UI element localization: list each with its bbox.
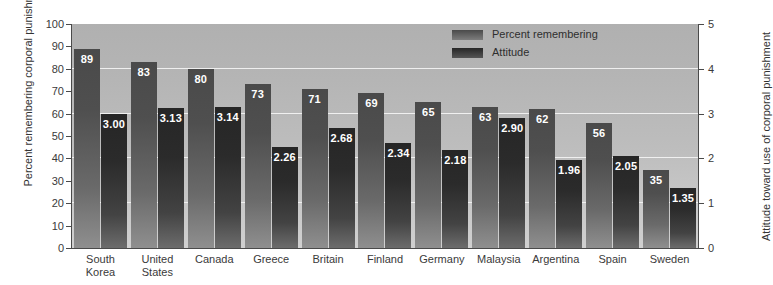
right-axis-tick	[699, 114, 704, 115]
right-axis-tick	[699, 158, 704, 159]
legend-item-percent-remembering: Percent remembering	[452, 27, 598, 42]
left-axis-tick	[66, 136, 71, 137]
bar-attitude[interactable]: 1.96	[556, 160, 582, 248]
category-label-line: Greece	[243, 253, 300, 266]
right-axis-tick	[699, 203, 704, 204]
legend: Percent remembering Attitude	[452, 27, 598, 63]
category-label: Sweden	[641, 253, 698, 279]
left-axis-title-line2: punishment as a child	[22, 0, 34, 35]
legend-item-attitude: Attitude	[452, 45, 598, 60]
bar-attitude[interactable]: 2.05	[613, 156, 639, 248]
category-label: SouthKorea	[72, 253, 129, 279]
category-label-line: States	[129, 266, 186, 279]
bar-attitude[interactable]: 2.90	[499, 118, 525, 248]
bar-value-label: 1.35	[670, 192, 696, 204]
left-axis-tick-label: 0	[58, 243, 64, 254]
category-labels: SouthKoreaUnitedStatesCanadaGreeceBritai…	[72, 253, 698, 279]
category-label: Britain	[300, 253, 357, 279]
bar-attitude[interactable]: 3.00	[101, 114, 127, 248]
category-label-line: Canada	[186, 253, 243, 266]
bar-attitude[interactable]: 2.26	[272, 147, 298, 248]
left-axis-tick-label: 10	[52, 221, 64, 232]
bar-value-label: 56	[586, 127, 612, 139]
bar-percent-remembering[interactable]: 71	[302, 89, 328, 248]
category-label-line: Finland	[357, 253, 414, 266]
bar-value-label: 80	[188, 73, 214, 85]
bar-value-label: 1.96	[556, 164, 582, 176]
bar-percent-remembering[interactable]: 63	[472, 107, 498, 248]
bar-attitude[interactable]: 1.35	[670, 188, 696, 248]
bar-attitude[interactable]: 2.34	[385, 143, 411, 248]
bar-percent-remembering[interactable]: 73	[245, 84, 271, 248]
legend-label-percent-remembering: Percent remembering	[492, 29, 598, 40]
legend-label-attitude: Attitude	[492, 47, 529, 58]
bar-percent-remembering[interactable]: 89	[74, 49, 100, 248]
bar-value-label: 63	[472, 111, 498, 123]
bar-percent-remembering[interactable]: 35	[643, 170, 669, 248]
left-axis-tick	[66, 226, 71, 227]
bar-value-label: 35	[643, 174, 669, 186]
bar-attitude[interactable]: 2.68	[329, 128, 355, 248]
left-axis-tick	[66, 203, 71, 204]
bar-value-label: 2.18	[442, 154, 468, 166]
bar-group: 712.68	[300, 24, 357, 248]
left-axis-line	[71, 24, 72, 249]
category-label-line: Malaysia	[470, 253, 527, 266]
bar-group: 803.14	[186, 24, 243, 248]
category-label-line: Korea	[72, 266, 129, 279]
left-axis-tick-label: 70	[52, 86, 64, 97]
left-axis-tick-label: 40	[52, 153, 64, 164]
bar-value-label: 73	[245, 88, 271, 100]
bar-group: 351.35	[641, 24, 698, 248]
category-label-line: Britain	[300, 253, 357, 266]
category-label: Spain	[584, 253, 641, 279]
bar-percent-remembering[interactable]: 69	[358, 93, 384, 248]
bar-value-label: 62	[529, 113, 555, 125]
left-axis-tick-label: 50	[52, 131, 64, 142]
bar-group: 692.34	[357, 24, 414, 248]
right-axis-tick-label: 1	[708, 198, 714, 209]
category-label: Germany	[413, 253, 470, 279]
bar-value-label: 2.90	[499, 122, 525, 134]
bar-percent-remembering[interactable]: 80	[188, 69, 214, 248]
legend-swatch-attitude	[452, 48, 483, 58]
category-label: Greece	[243, 253, 300, 279]
bar-group: 732.26	[243, 24, 300, 248]
bar-groups: 893.00833.13803.14732.26712.68692.34652.…	[72, 24, 698, 248]
bar-value-label: 2.26	[272, 151, 298, 163]
right-axis-tick-label: 4	[708, 64, 714, 75]
bottom-axis-line	[71, 248, 699, 249]
left-axis-tick-label: 30	[52, 176, 64, 187]
category-label-line: United	[129, 253, 186, 266]
left-axis-tick	[66, 91, 71, 92]
left-axis-tick-label: 100	[46, 19, 64, 30]
right-axis-title: Attitude toward use of corporal punishme…	[760, 22, 773, 252]
left-axis-tick-label: 80	[52, 64, 64, 75]
left-axis-tick	[66, 114, 71, 115]
bar-value-label: 83	[131, 66, 157, 78]
left-axis-tick-label: 90	[52, 41, 64, 52]
bar-attitude[interactable]: 3.13	[158, 108, 184, 248]
category-label: Canada	[186, 253, 243, 279]
right-axis-tick	[699, 248, 704, 249]
category-label: UnitedStates	[129, 253, 186, 279]
category-label: Malaysia	[470, 253, 527, 279]
bar-value-label: 2.68	[329, 132, 355, 144]
left-axis-tick	[66, 158, 71, 159]
category-label-line: Sweden	[641, 253, 698, 266]
right-axis-tick-label: 5	[708, 19, 714, 30]
bar-percent-remembering[interactable]: 83	[131, 62, 157, 248]
bar-value-label: 2.34	[385, 147, 411, 159]
bar-percent-remembering[interactable]: 62	[529, 109, 555, 248]
bar-percent-remembering[interactable]: 56	[586, 123, 612, 248]
legend-swatch-percent-remembering	[452, 30, 483, 40]
bar-attitude[interactable]: 3.14	[215, 107, 241, 248]
category-label-line: Spain	[584, 253, 641, 266]
bar-group: 833.13	[129, 24, 186, 248]
bar-value-label: 89	[74, 53, 100, 65]
bar-percent-remembering[interactable]: 65	[415, 102, 441, 248]
bar-value-label: 3.13	[158, 112, 184, 124]
right-axis-tick-label: 2	[708, 153, 714, 164]
bar-attitude[interactable]: 2.18	[442, 150, 468, 248]
category-label-line: Argentina	[527, 253, 584, 266]
